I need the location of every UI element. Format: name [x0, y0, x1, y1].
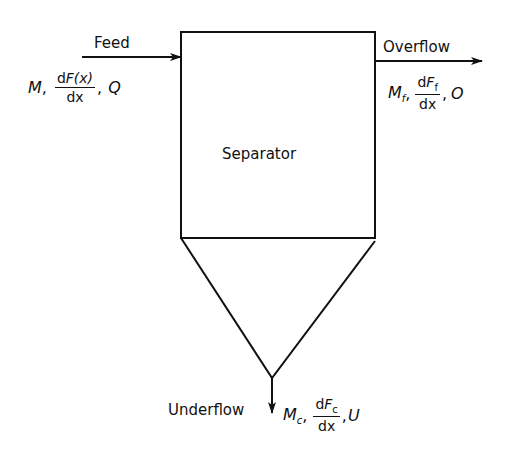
feed-label: Feed [94, 36, 130, 51]
feed-mass: M [28, 78, 42, 97]
overflow-size-distribution: dFf dx [415, 74, 439, 112]
overflow-variables: Mf, dFf dx ,O [388, 74, 464, 112]
underflow-label: Underflow [168, 403, 244, 418]
feed-flowrate: Q [108, 78, 121, 97]
underflow-mass: Mc [283, 405, 302, 426]
underflow-variables: Mc, dFc dx ,U [283, 396, 360, 434]
overflow-label: Overflow [383, 40, 450, 55]
overflow-flowrate: O [451, 84, 464, 103]
separator-label: Separator [222, 147, 296, 162]
overflow-mass: Mf [388, 83, 405, 104]
feed-variables: M, dF(x) dx ,Q [28, 70, 121, 105]
separator-body [181, 32, 375, 238]
underflow-flowrate: U [348, 406, 360, 425]
feed-size-distribution: dF(x) dx [55, 70, 95, 105]
separator-cone [181, 238, 375, 378]
underflow-size-distribution: dFc dx [313, 396, 339, 434]
